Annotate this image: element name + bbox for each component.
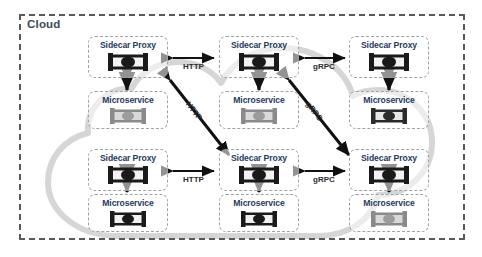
server-glyph-icon [108, 53, 148, 75]
node-proxy-3[interactable]: Sidecar Proxy [349, 36, 429, 78]
node-label: Microservice [233, 95, 284, 106]
node-label: Sidecar Proxy [100, 153, 156, 164]
diagram-canvas: Cloud [0, 0, 482, 257]
server-glyph-icon [369, 166, 409, 188]
node-ms-6[interactable]: Microservice [349, 194, 429, 232]
node-label: Sidecar Proxy [231, 153, 287, 164]
server-glyph-icon [239, 166, 279, 188]
edge-label-grpc-bottom: gRPC [313, 175, 335, 184]
node-ms-3[interactable]: Microservice [349, 91, 429, 129]
server-glyph-icon [239, 53, 279, 75]
node-label: Microservice [233, 198, 284, 209]
node-label: Microservice [102, 198, 153, 209]
server-glyph-icon [371, 211, 407, 231]
node-label: Sidecar Proxy [231, 40, 287, 51]
server-glyph-icon [110, 211, 146, 231]
node-label: Sidecar Proxy [100, 40, 156, 51]
server-glyph-icon [241, 108, 277, 128]
server-glyph-icon [369, 53, 409, 75]
node-ms-4[interactable]: Microservice [88, 194, 168, 232]
node-label: Microservice [102, 95, 153, 106]
node-ms-2[interactable]: Microservice [219, 91, 299, 129]
server-glyph-icon [371, 108, 407, 128]
node-proxy-1[interactable]: Sidecar Proxy [88, 36, 168, 78]
edge-label-http-bottom: HTTP [183, 175, 204, 184]
node-label: Sidecar Proxy [361, 40, 417, 51]
node-label: Microservice [363, 198, 414, 209]
node-proxy-4[interactable]: Sidecar Proxy [88, 149, 168, 191]
node-label: Sidecar Proxy [361, 153, 417, 164]
server-glyph-icon [241, 211, 277, 231]
node-proxy-6[interactable]: Sidecar Proxy [349, 149, 429, 191]
node-proxy-5[interactable]: Sidecar Proxy [219, 149, 299, 191]
server-glyph-icon [108, 166, 148, 188]
edge-label-grpc-top: gRPC [313, 62, 335, 71]
node-proxy-2[interactable]: Sidecar Proxy [219, 36, 299, 78]
node-ms-1[interactable]: Microservice [88, 91, 168, 129]
node-label: Microservice [363, 95, 414, 106]
node-ms-5[interactable]: Microservice [219, 194, 299, 232]
server-glyph-icon [110, 108, 146, 128]
edge-label-http-top: HTTP [183, 62, 204, 71]
